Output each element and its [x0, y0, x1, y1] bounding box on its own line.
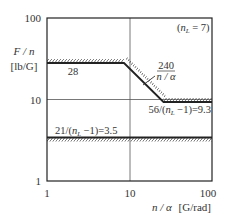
y-tick-10: 10 — [30, 94, 42, 106]
y-axis-title: F / n — [13, 45, 35, 57]
label-240-numerator: 240 — [158, 60, 174, 71]
label-3-5: 21/(nL −1)=3.5 — [55, 125, 117, 138]
label-240-denominator: n / α — [157, 71, 176, 82]
y-axis-unit: [lb/G] — [11, 60, 38, 72]
y-tick-1: 1 — [36, 175, 42, 187]
x-axis-title: n / α [G/rad] — [152, 201, 211, 213]
lower-boundary-hatch — [47, 138, 212, 142]
corner-note: (nL = 7) — [177, 22, 210, 35]
x-tick-10: 10 — [125, 187, 137, 199]
x-tick-1: 1 — [44, 187, 50, 199]
label-28: 28 — [68, 66, 79, 77]
x-tick-100: 100 — [200, 187, 217, 199]
label-9-3: 56/(nL −1)=9.3 — [149, 104, 211, 117]
chart: 100 10 1 1 10 100 F / n [lb/G] n / α [G/… — [0, 0, 228, 224]
y-tick-100: 100 — [25, 12, 42, 24]
